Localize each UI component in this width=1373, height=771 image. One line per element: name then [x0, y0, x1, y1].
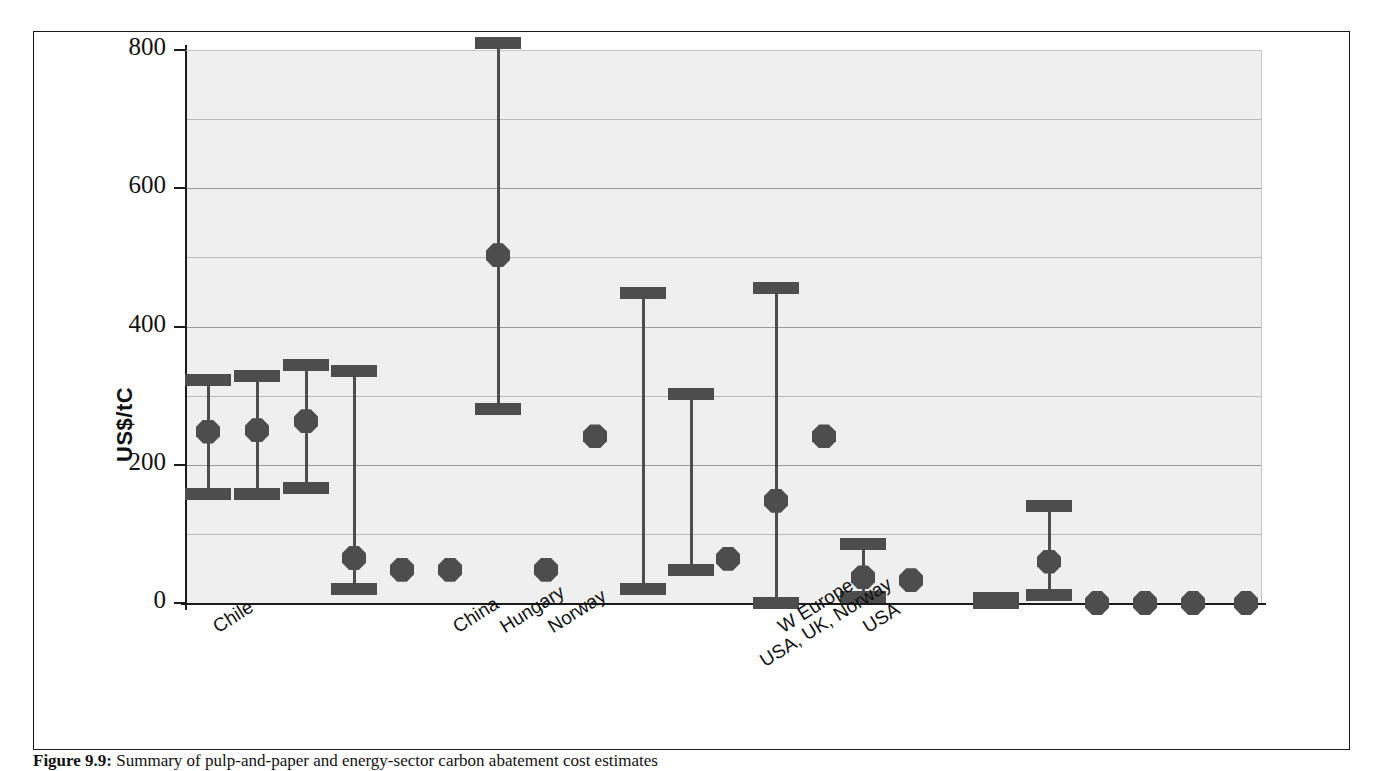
y-tick-600 — [174, 187, 186, 189]
range-cap-high-col-10 — [668, 388, 714, 400]
central-marker-china — [438, 558, 462, 582]
range-cap-high-col-9 — [620, 287, 666, 299]
gridline-minor-100 — [186, 534, 1261, 535]
range-cap-low-col-3 — [331, 583, 377, 595]
range-cap-high-col-2 — [283, 359, 329, 371]
y-tick-0 — [174, 602, 186, 604]
gridline-major-400 — [186, 327, 1261, 328]
range-bar-col-10 — [690, 394, 693, 570]
central-marker-hungary — [486, 243, 510, 267]
figure-caption: Figure 9.9: Summary of pulp-and-paper an… — [33, 751, 658, 771]
range-bar-col-9 — [642, 293, 645, 589]
central-marker-col-3 — [342, 546, 366, 570]
range-cap-high-hungary — [475, 37, 521, 49]
plot-right-edge — [1261, 50, 1262, 603]
gridline-minor-700 — [186, 119, 1261, 120]
figure-frame: 0200400600800ChileChinaHungaryNorwayW Eu… — [33, 31, 1350, 750]
range-cap-high-chile — [185, 374, 231, 386]
range-cap-low-chile — [185, 488, 231, 500]
plot-top-edge — [186, 50, 1261, 51]
central-marker-col-15 — [899, 568, 923, 592]
range-cap-low-col-2 — [283, 482, 329, 494]
y-tick-label-800: 800 — [56, 33, 166, 61]
y-tick-label-200: 200 — [56, 448, 166, 476]
range-cap-low-col-16 — [973, 597, 1019, 609]
figure-caption-label: Figure 9.9: — [33, 751, 112, 770]
chart-layer: 0200400600800ChileChinaHungaryNorwayW Eu… — [34, 32, 1349, 749]
x-axis-label-china: China — [449, 593, 503, 638]
range-cap-low-col-1 — [234, 488, 280, 500]
range-cap-high-col-1 — [234, 370, 280, 382]
central-marker-col-17 — [1037, 550, 1061, 574]
central-marker-col-4 — [390, 558, 414, 582]
gridline-major-200 — [186, 465, 1261, 466]
y-axis-title: US$/tC — [112, 387, 138, 462]
figure-caption-text: Summary of pulp-and-paper and energy-sec… — [112, 751, 658, 770]
gridline-minor-300 — [186, 396, 1261, 397]
central-marker-col-8 — [583, 424, 607, 448]
central-marker-usa-uk-norway — [812, 424, 836, 448]
central-marker-col-2 — [294, 409, 318, 433]
central-marker-col-11 — [716, 547, 740, 571]
central-marker-norway — [534, 558, 558, 582]
y-tick-label-400: 400 — [56, 310, 166, 338]
range-cap-high-w-europe — [753, 282, 799, 294]
gridline-major-600 — [186, 188, 1261, 189]
gridline-minor-500 — [186, 257, 1261, 258]
range-cap-high-col-17 — [1026, 500, 1072, 512]
central-marker-w-europe — [764, 489, 788, 513]
range-cap-low-col-17 — [1026, 589, 1072, 601]
central-marker-col-1 — [245, 418, 269, 442]
central-marker-chile — [196, 420, 220, 444]
y-tick-label-600: 600 — [56, 171, 166, 199]
range-cap-low-col-10 — [668, 564, 714, 576]
y-tick-400 — [174, 326, 186, 328]
range-cap-high-usa — [840, 538, 886, 550]
range-cap-low-hungary — [475, 403, 521, 415]
y-tick-label-0: 0 — [56, 586, 166, 614]
y-axis-line — [185, 45, 187, 610]
range-cap-low-col-9 — [620, 583, 666, 595]
y-tick-800 — [174, 49, 186, 51]
range-bar-w-europe — [775, 288, 778, 603]
central-marker-col-19 — [1133, 591, 1157, 615]
range-cap-high-col-3 — [331, 365, 377, 377]
range-bar-hungary — [497, 43, 500, 409]
y-tick-200 — [174, 464, 186, 466]
central-marker-col-20 — [1181, 591, 1205, 615]
central-marker-col-18 — [1085, 591, 1109, 615]
central-marker-col-21 — [1234, 591, 1258, 615]
